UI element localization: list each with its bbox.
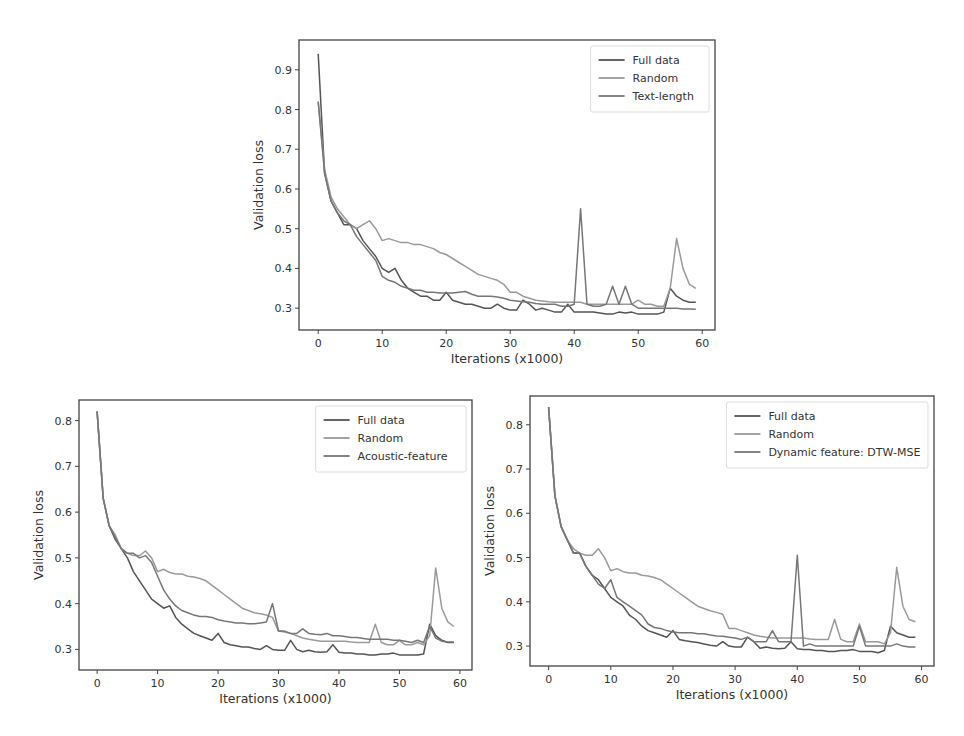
y-tick-label: 0.8 <box>55 415 73 428</box>
y-tick-label: 0.5 <box>275 223 293 236</box>
x-tick-label: 20 <box>439 337 453 350</box>
legend-label: Text-length <box>632 90 694 103</box>
legend-label: Random <box>358 432 404 445</box>
y-tick-label: 0.5 <box>55 552 73 565</box>
x-tick-label: 20 <box>211 677 225 690</box>
x-tick-label: 40 <box>567 337 581 350</box>
y-tick-label: 0.3 <box>55 643 73 656</box>
legend-label: Acoustic-feature <box>358 450 448 463</box>
x-tick-label: 0 <box>94 677 101 690</box>
y-tick-label: 0.8 <box>275 104 293 117</box>
x-tick-label: 10 <box>375 337 389 350</box>
y-tick-label: 0.4 <box>275 262 293 275</box>
x-tick-label: 60 <box>453 677 467 690</box>
bottom-left-plot: 01020304050600.30.40.50.60.70.8Iteration… <box>31 400 472 706</box>
legend-label: Random <box>633 72 679 85</box>
x-tick-label: 40 <box>790 673 804 686</box>
x-tick-label: 20 <box>666 673 680 686</box>
y-axis-label: Validation loss <box>251 140 266 230</box>
top-plot: 01020304050600.30.40.50.60.70.80.9Iterat… <box>251 40 715 366</box>
bottom-right-plot: 01020304050600.30.40.50.60.70.8Iteration… <box>482 396 934 702</box>
x-tick-label: 30 <box>272 677 286 690</box>
y-tick-label: 0.8 <box>506 419 524 432</box>
series-line <box>318 102 696 307</box>
legend-label: Full data <box>768 410 815 423</box>
x-tick-label: 60 <box>915 673 929 686</box>
y-tick-label: 0.6 <box>275 183 293 196</box>
x-axis-label: Iterations (x1000) <box>676 687 788 702</box>
y-tick-label: 0.7 <box>506 463 524 476</box>
x-tick-label: 10 <box>604 673 618 686</box>
y-tick-label: 0.9 <box>275 64 293 77</box>
x-tick-label: 40 <box>332 677 346 690</box>
y-tick-label: 0.6 <box>55 506 73 519</box>
legend-label: Random <box>768 428 814 441</box>
y-tick-label: 0.4 <box>506 596 524 609</box>
legend-label: Dynamic feature: DTW-MSE <box>768 446 920 459</box>
y-axis-label: Validation loss <box>31 490 46 580</box>
y-tick-label: 0.5 <box>506 552 524 565</box>
x-tick-label: 60 <box>695 337 709 350</box>
y-tick-label: 0.3 <box>275 302 293 315</box>
x-tick-label: 10 <box>151 677 165 690</box>
legend: Full dataRandomDynamic feature: DTW-MSE <box>726 402 928 468</box>
x-tick-label: 30 <box>728 673 742 686</box>
legend-label: Full data <box>633 54 680 67</box>
series-line <box>318 102 696 310</box>
y-tick-label: 0.3 <box>506 640 524 653</box>
x-tick-label: 50 <box>631 337 645 350</box>
x-tick-label: 50 <box>852 673 866 686</box>
y-tick-label: 0.6 <box>506 507 524 520</box>
y-tick-label: 0.7 <box>275 143 293 156</box>
x-tick-label: 30 <box>503 337 517 350</box>
legend: Full dataRandomText-length <box>591 46 709 112</box>
x-axis-label: Iterations (x1000) <box>219 691 331 706</box>
top-chart: 01020304050600.30.40.50.60.70.80.9Iterat… <box>0 0 964 736</box>
y-tick-label: 0.7 <box>55 460 73 473</box>
legend-label: Full data <box>358 414 405 427</box>
x-tick-label: 50 <box>392 677 406 690</box>
x-tick-label: 0 <box>315 337 322 350</box>
y-tick-label: 0.4 <box>55 598 73 611</box>
x-tick-label: 0 <box>545 673 552 686</box>
x-axis-label: Iterations (x1000) <box>451 351 563 366</box>
y-axis-label: Validation loss <box>482 486 497 576</box>
legend: Full dataRandomAcoustic-feature <box>316 406 466 472</box>
